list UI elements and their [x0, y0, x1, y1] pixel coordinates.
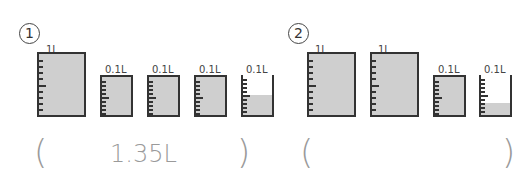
- beaker-0-1l: [147, 75, 180, 117]
- beaker-label: 0.1L: [199, 64, 220, 75]
- beaker-label: 0.1L: [484, 64, 505, 75]
- beaker-label: 0.1L: [105, 64, 126, 75]
- answer-paren-open: (: [34, 132, 47, 172]
- beaker-0-1l: [194, 75, 227, 117]
- problem-number-2: 2: [288, 22, 309, 44]
- beaker-0-1l: [100, 75, 133, 117]
- beaker-1l: [37, 52, 86, 117]
- beaker-label: 0.1L: [152, 64, 173, 75]
- answer-paren-close: ): [502, 132, 515, 172]
- answer-paren-open: (: [300, 132, 313, 172]
- scale-ticks: [39, 54, 45, 115]
- beaker-label: 0.1L: [438, 64, 459, 75]
- beaker-label: 0.1L: [246, 64, 267, 75]
- answer-field-1[interactable]: 1.35L: [110, 140, 177, 168]
- problem-number-1: 1: [19, 22, 40, 44]
- beaker-0-1l-partial: [241, 75, 274, 117]
- answer-paren-close: ): [237, 132, 250, 172]
- beaker-0-1l-partial: [479, 75, 512, 117]
- answer-field-2[interactable]: [370, 140, 470, 168]
- beaker-0-1l: [433, 75, 466, 117]
- beaker-1l: [370, 52, 419, 117]
- beaker-1l: [307, 52, 356, 117]
